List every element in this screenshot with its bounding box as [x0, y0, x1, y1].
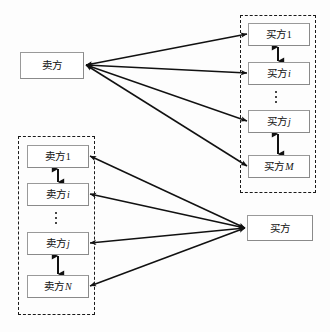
node-seller[interactable]: 卖方: [20, 52, 84, 79]
node-label-base: 买方: [264, 161, 284, 172]
node-label-suffix: N: [65, 282, 72, 292]
seller-to-buyerM: [86, 65, 247, 166]
node-buyer-1[interactable]: 买方1: [248, 23, 310, 46]
node-buyer-label: 买方: [270, 223, 290, 234]
seller-to-buyer1: [86, 34, 247, 65]
node-label-suffix: j: [287, 117, 290, 127]
node-seller-1[interactable]: 卖方1: [27, 145, 89, 168]
selleri-to-buyer: [90, 194, 245, 228]
node-label-suffix: i: [66, 190, 69, 200]
node-label-base: 卖方: [46, 238, 66, 249]
node-label-base: 卖方: [46, 189, 66, 200]
node-label-suffix: M: [285, 162, 294, 172]
seller-to-buyerj: [86, 65, 247, 121]
node-label-suffix: j: [66, 239, 69, 249]
node-label-base: 买方: [267, 116, 287, 127]
node-buyer-i[interactable]: 买方i: [248, 62, 310, 85]
node-label-base: 卖方: [45, 151, 65, 162]
sellerN-to-buyer: [90, 228, 245, 286]
seller-to-buyeri: [86, 65, 247, 73]
node-seller-i[interactable]: 卖方i: [27, 183, 89, 206]
node-seller-j[interactable]: 卖方j: [27, 232, 89, 255]
buyer-group-ellipsis-icon: [275, 91, 277, 103]
node-buyer-M[interactable]: 买方M: [248, 155, 310, 178]
node-label-base: 卖方: [44, 281, 64, 292]
seller-group-ellipsis-icon: [55, 212, 57, 224]
node-label-suffix: 1: [65, 152, 71, 162]
node-seller-label: 卖方: [42, 60, 62, 71]
node-buyer[interactable]: 买方: [247, 215, 313, 241]
node-label-suffix: 1: [286, 30, 292, 40]
diagram-canvas: 卖方 买方 买方1买方i买方j买方M 卖方1卖方i卖方j卖方N: [0, 0, 330, 332]
node-seller-N[interactable]: 卖方N: [27, 275, 89, 298]
sellerj-to-buyer: [90, 228, 245, 243]
node-label-base: 买方: [266, 29, 286, 40]
node-buyer-j[interactable]: 买方j: [248, 110, 310, 133]
seller1-to-buyer: [90, 156, 245, 228]
node-label-base: 买方: [267, 68, 287, 79]
node-label-suffix: i: [287, 69, 290, 79]
